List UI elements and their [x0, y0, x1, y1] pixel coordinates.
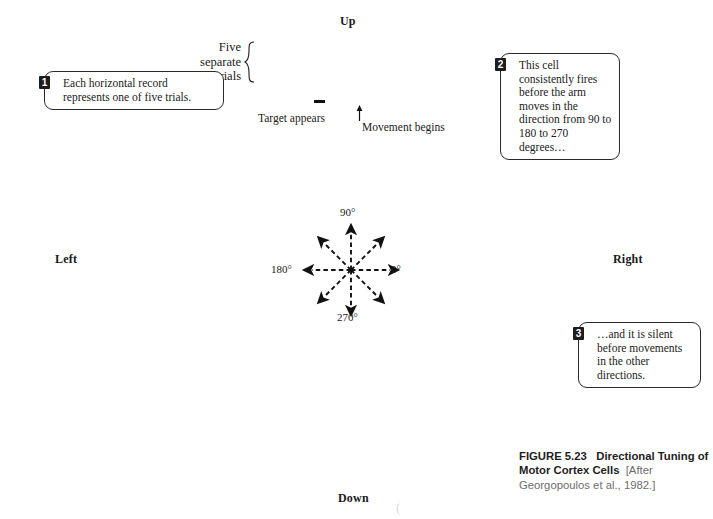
- direction-label-up: Up: [340, 14, 356, 29]
- callout-1-text: Each horizontal record represents one of…: [63, 77, 216, 104]
- callout-1-number: 1: [39, 76, 50, 89]
- compass-label-180: 180°: [271, 263, 292, 275]
- callout-3-text: …and it is silent before movements in th…: [597, 328, 693, 382]
- figure-caption: FIGURE 5.23 Directional Tuning of Motor …: [519, 449, 711, 492]
- callout-1: 1 Each horizontal record represents one …: [44, 71, 224, 110]
- figure-directional-tuning: Up Down Left Right Five separate trials …: [0, 0, 713, 519]
- callout-3-number: 3: [573, 327, 584, 340]
- direction-label-left: Left: [55, 252, 77, 267]
- figure-number: FIGURE 5.23: [519, 450, 587, 462]
- compass-label-270: 270°: [337, 311, 358, 323]
- callout-2: 2 This cell consistently fires before th…: [500, 53, 620, 160]
- callout-2-number: 2: [495, 58, 506, 71]
- movement-begins-arrow-icon: [355, 105, 364, 121]
- target-appears-label: Target appears: [258, 112, 325, 124]
- target-appears-marker: [314, 100, 325, 103]
- scan-artifact: (: [396, 500, 400, 516]
- compass-label-0: 0°: [391, 263, 401, 275]
- callout-2-text: This cell consistently fires before the …: [519, 59, 612, 154]
- compass-label-90: 90°: [340, 206, 355, 218]
- callout-3: 3 …and it is silent before movements in …: [578, 322, 701, 388]
- brace-icon: [244, 41, 255, 83]
- direction-compass: 90° 270° 0° 180°: [296, 218, 406, 322]
- movement-begins-label: Movement begins: [362, 121, 445, 133]
- direction-label-right: Right: [613, 252, 643, 267]
- direction-label-down: Down: [338, 491, 369, 506]
- compass-arrows-icon: [296, 218, 406, 322]
